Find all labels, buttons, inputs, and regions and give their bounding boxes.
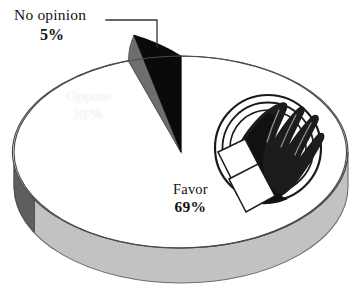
pie-chart-graphic xyxy=(0,0,362,302)
slice-label-oppose: Oppose 26% xyxy=(66,89,112,122)
slice-label-favor: Favor 69% xyxy=(173,182,208,215)
slice-label-no-opinion-name: No opinion xyxy=(14,7,86,24)
slice-label-oppose-value: 26% xyxy=(66,106,112,122)
slice-label-favor-name: Favor xyxy=(173,182,208,198)
pie-chart: No opinion 5% Oppose 26% Favor 69% xyxy=(0,0,362,302)
slice-label-favor-value: 69% xyxy=(173,199,208,216)
slice-label-no-opinion: No opinion 5% xyxy=(14,7,86,43)
slice-label-no-opinion-value: 5% xyxy=(14,26,86,43)
slice-label-oppose-name: Oppose xyxy=(66,89,112,105)
